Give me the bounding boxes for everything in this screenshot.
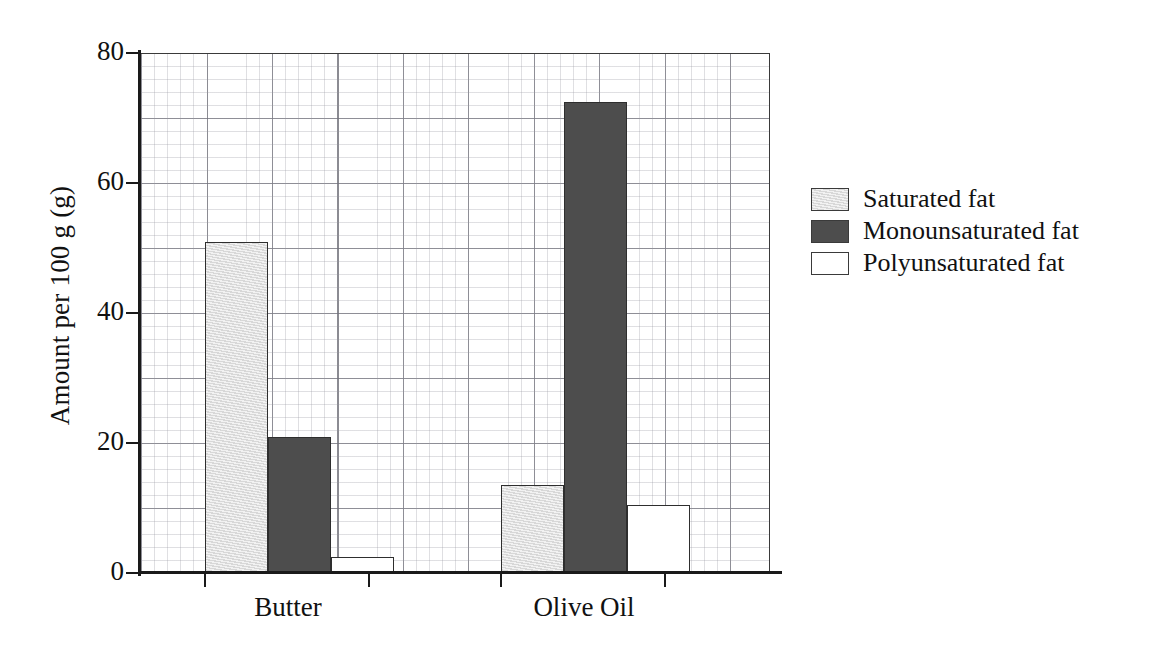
y-axis-line <box>138 50 141 576</box>
legend-swatch-monounsaturated-fat <box>811 220 849 243</box>
legend-swatch-saturated-fat <box>811 188 849 211</box>
y-tick-label-20: 20 <box>76 426 124 457</box>
legend-item-monounsaturated-fat: Monounsaturated fat <box>811 215 1141 247</box>
plot-top-border <box>141 53 770 54</box>
y-tick-label-80: 80 <box>76 36 124 67</box>
bar-butter-saturated-fat <box>205 242 268 574</box>
y-tick-label-40: 40 <box>76 296 124 327</box>
bar-butter-monounsaturated-fat <box>268 437 331 574</box>
legend-item-saturated-fat: Saturated fat <box>811 183 1141 215</box>
legend-item-polyunsaturated-fat: Polyunsaturated fat <box>811 247 1141 279</box>
legend-label-monounsaturated-fat: Monounsaturated fat <box>863 218 1079 244</box>
x-tick-mark-2 <box>368 573 370 587</box>
y-tick-label-60: 60 <box>76 166 124 197</box>
y-axis-title: Amount per 100 g (g) <box>45 86 76 526</box>
x-tick-mark-1 <box>204 573 206 587</box>
x-axis-label-olive-oil: Olive Oil <box>502 592 666 623</box>
x-axis-label-butter: Butter <box>206 592 370 623</box>
plot-right-border <box>769 53 770 573</box>
plot-area <box>141 53 770 573</box>
bar-olive-oil-saturated-fat <box>501 485 564 573</box>
x-tick-mark-4 <box>664 573 666 587</box>
bar-olive-oil-polyunsaturated-fat <box>627 505 690 573</box>
x-tick-mark-3 <box>500 573 502 587</box>
fat-composition-bar-chart: Amount per 100 g (g) 80 60 40 20 0 Butte… <box>0 0 1152 647</box>
legend-label-polyunsaturated-fat: Polyunsaturated fat <box>863 250 1064 276</box>
y-tick-label-0: 0 <box>76 556 124 587</box>
x-axis-line <box>138 571 782 574</box>
legend-label-saturated-fat: Saturated fat <box>863 186 995 212</box>
bar-olive-oil-monounsaturated-fat <box>564 102 627 573</box>
legend-swatch-polyunsaturated-fat <box>811 252 849 275</box>
chart-legend: Saturated fat Monounsaturated fat Polyun… <box>811 183 1141 279</box>
